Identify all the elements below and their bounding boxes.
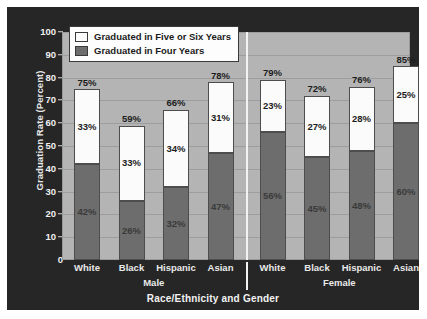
bar-segment-five-or-six-years: 23% [260, 80, 286, 132]
y-axis-tick-label: 10 [45, 231, 56, 242]
bar-female-hispanic: 48%28%76% [349, 32, 375, 260]
chart-frame: Graduation Rate (Percent) 10090807060504… [7, 7, 419, 310]
bar-female-asian: 60%25%85% [393, 32, 419, 260]
x-axis-label-female-black: Black [292, 263, 342, 273]
bar-segment-four-years: 32% [163, 187, 189, 260]
bar-value-label-five-or-six-years: 33% [122, 158, 141, 168]
y-axis-tick-label: 60 [45, 117, 56, 128]
bar-value-label-five-or-six-years: 33% [77, 122, 96, 132]
bar-male-hispanic: 32%34%66% [163, 32, 189, 260]
legend-item-four-years: Graduated in Four Years [75, 45, 231, 57]
y-axis-tick-100: 100 [23, 27, 63, 37]
bar-segment-five-or-six-years: 34% [163, 110, 189, 188]
y-axis-tick-label: 30 [45, 186, 56, 197]
y-axis-tick-70: 70 [23, 96, 63, 106]
bar-value-label-four-years: 60% [396, 187, 415, 197]
bar-male-white: 42%33%75% [74, 32, 100, 260]
bar-total-label: 76% [343, 75, 381, 85]
y-axis-tick-30: 30 [23, 187, 63, 197]
bar-segment-five-or-six-years: 27% [304, 96, 330, 158]
bar-total-label: 59% [113, 114, 151, 124]
bar-female-black: 45%27%72% [304, 32, 330, 260]
bar-value-label-four-years: 47% [211, 202, 230, 212]
y-axis-tick-60: 60 [23, 118, 63, 128]
legend-swatch-four-years [75, 46, 88, 56]
x-axis-label-female-white: White [248, 263, 298, 273]
bar-value-label-four-years: 56% [263, 191, 282, 201]
bar-value-label-four-years: 45% [307, 204, 326, 214]
y-axis-tick-label: 100 [40, 26, 56, 37]
bar-value-label-four-years: 48% [352, 201, 371, 211]
bar-male-black: 26%33%59% [119, 32, 145, 260]
y-axis-tick-50: 50 [23, 141, 63, 151]
bar-value-label-five-or-six-years: 27% [307, 122, 326, 132]
bar-segment-four-years: 60% [393, 123, 419, 260]
y-axis-tick-0: 0 [23, 255, 63, 265]
bar-value-label-five-or-six-years: 25% [396, 90, 415, 100]
bar-total-label: 66% [157, 98, 195, 108]
bar-value-label-four-years: 42% [77, 207, 96, 217]
bar-value-label-five-or-six-years: 31% [211, 113, 230, 123]
y-axis-tick-label: 40 [45, 163, 56, 174]
bar-segment-five-or-six-years: 33% [74, 89, 100, 164]
x-axis-label-female-asian: Asian [381, 263, 419, 273]
y-axis-tick-20: 20 [23, 210, 63, 220]
legend-swatch-five-or-six-years [75, 32, 88, 42]
x-axis-label-male-hispanic: Hispanic [151, 263, 201, 273]
y-axis-tick-label: 50 [45, 140, 56, 151]
bar-value-label-five-or-six-years: 28% [352, 114, 371, 124]
y-axis-tick-40: 40 [23, 164, 63, 174]
chart-legend: Graduated in Five or Six Years Graduated… [69, 26, 239, 62]
x-axis-label-male-white: White [62, 263, 112, 273]
bar-total-label: 78% [202, 71, 240, 81]
bar-segment-four-years: 42% [74, 164, 100, 260]
bar-value-label-four-years: 32% [166, 219, 185, 229]
bar-segment-five-or-six-years: 28% [349, 87, 375, 151]
legend-label-four-years: Graduated in Four Years [94, 46, 204, 56]
x-axis-group-labels: MaleFemale [62, 278, 410, 291]
bar-segment-four-years: 26% [119, 201, 145, 260]
plot-area: 42%33%75%26%33%59%32%34%66%47%31%78%56%2… [62, 32, 410, 260]
bar-male-asian: 47%31%78% [208, 32, 234, 260]
y-axis-tick-label: 80 [45, 72, 56, 83]
group-divider [246, 32, 248, 260]
bar-total-label: 72% [298, 84, 336, 94]
bar-segment-five-or-six-years: 25% [393, 66, 419, 123]
x-axis-label-male-asian: Asian [196, 263, 246, 273]
bar-total-label: 79% [254, 68, 292, 78]
bar-segment-four-years: 45% [304, 157, 330, 260]
bar-total-label: 85% [387, 55, 419, 65]
bar-total-label: 75% [68, 78, 106, 88]
bar-segment-five-or-six-years: 31% [208, 82, 234, 153]
y-axis-tick-labels: 1009080706050403020100 [23, 32, 63, 260]
bar-segment-five-or-six-years: 33% [119, 126, 145, 201]
x-axis-title: Race/Ethnicity and Gender [7, 293, 419, 304]
y-axis-tick-label: 70 [45, 95, 56, 106]
x-axis-group-label-female: Female [289, 278, 389, 288]
y-axis-tick-80: 80 [23, 73, 63, 83]
bar-value-label-four-years: 26% [122, 226, 141, 236]
bar-value-label-five-or-six-years: 34% [166, 144, 185, 154]
legend-item-five-or-six-years: Graduated in Five or Six Years [75, 31, 231, 43]
bar-segment-four-years: 56% [260, 132, 286, 260]
y-axis-tick-label: 20 [45, 209, 56, 220]
bar-segment-four-years: 47% [208, 153, 234, 260]
bar-value-label-five-or-six-years: 23% [263, 101, 282, 111]
x-axis-group-label-male: Male [104, 278, 204, 288]
legend-label-five-or-six-years: Graduated in Five or Six Years [94, 32, 231, 42]
x-axis-label-female-hispanic: Hispanic [337, 263, 387, 273]
bar-female-white: 56%23%79% [260, 32, 286, 260]
y-axis-tick-label: 90 [45, 49, 56, 60]
x-axis-label-male-black: Black [107, 263, 157, 273]
y-axis-tick-10: 10 [23, 232, 63, 242]
y-axis-tick-90: 90 [23, 50, 63, 60]
x-axis-category-labels: WhiteBlackHispanicAsianWhiteBlackHispani… [62, 263, 410, 276]
bar-segment-four-years: 48% [349, 151, 375, 260]
